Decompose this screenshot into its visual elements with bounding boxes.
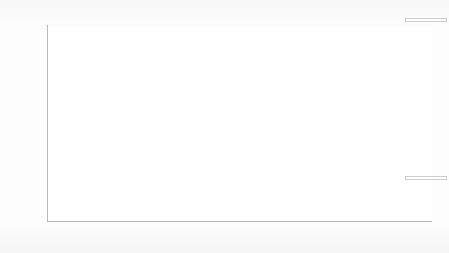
stacked-bar-series [47,25,432,222]
plot-area [47,25,432,222]
legend-other-lower-court [405,18,447,22]
chart-figure [0,0,449,253]
legend-state-supreme [405,176,447,180]
